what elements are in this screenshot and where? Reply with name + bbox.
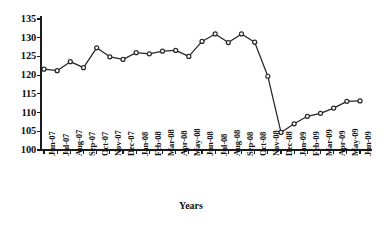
x-axis-tick-label: Apr-09	[337, 131, 347, 156]
x-axis-tick-label: May-08	[192, 128, 202, 156]
y-axis-tick-label: 120	[2, 69, 36, 80]
x-axis-tick-label: Nov-07	[113, 130, 123, 156]
data-point-marker	[266, 74, 270, 78]
x-axis-tick-label: Sep-07	[87, 132, 97, 156]
x-axis-tick-label: Jul-08	[219, 134, 229, 156]
x-axis-tick-label: Sep-08	[245, 132, 255, 156]
x-axis-tick-label: Nov-08	[271, 130, 281, 156]
x-axis-tick-label: Jun-07	[47, 131, 57, 156]
data-point-marker	[68, 60, 72, 64]
data-point-marker	[147, 52, 151, 56]
x-axis-tick-label: Jun-09	[363, 131, 373, 156]
y-axis-tick-label: 130	[2, 32, 36, 43]
data-point-marker	[319, 111, 323, 115]
chart-series-markers	[42, 32, 362, 134]
data-point-marker	[82, 66, 86, 70]
data-point-marker	[305, 114, 309, 118]
data-point-marker	[55, 69, 59, 73]
data-point-marker	[121, 57, 125, 61]
data-point-marker	[95, 46, 99, 50]
data-point-marker	[240, 32, 244, 36]
y-axis-tick-label: 125	[2, 50, 36, 61]
x-axis-tick-label: Mar-08	[166, 129, 176, 156]
chart-series-line	[44, 34, 360, 132]
y-axis-tick-label: 115	[2, 88, 36, 99]
data-point-marker	[226, 41, 230, 45]
x-axis-tick-label: Apr-08	[179, 131, 189, 156]
y-axis-tick-label: 110	[2, 107, 36, 118]
x-axis-tick-label: Dec-07	[126, 131, 136, 156]
x-axis-title: Years	[0, 200, 382, 211]
data-point-marker	[358, 99, 362, 103]
y-axis-tick-label: 105	[2, 125, 36, 136]
x-axis-tick-label: Mar-09	[324, 129, 334, 156]
data-point-marker	[174, 48, 178, 52]
data-point-marker	[345, 99, 349, 103]
x-axis-tick-label: Oct-07	[100, 132, 110, 156]
data-point-marker	[253, 40, 257, 44]
data-point-marker	[42, 67, 46, 71]
x-axis-tick-label: Jan-09	[298, 132, 308, 156]
data-point-marker	[292, 122, 296, 126]
x-axis-tick-label: May-09	[350, 128, 360, 156]
y-axis-tick-label: 135	[2, 13, 36, 24]
x-axis-tick-label: Aug-08	[232, 130, 242, 156]
x-axis-tick-label: Jan-08	[140, 132, 150, 156]
chart-plot-area	[0, 0, 382, 225]
data-point-marker	[213, 32, 217, 36]
data-point-marker	[332, 106, 336, 110]
data-point-marker	[187, 54, 191, 58]
x-axis-tick-label: Dec-08	[284, 131, 294, 156]
x-axis-tick-label: Feb-09	[311, 131, 321, 156]
data-point-marker	[108, 55, 112, 59]
data-point-marker	[161, 49, 165, 53]
x-axis-tick-label: Feb-08	[153, 131, 163, 156]
x-axis-tick-label: Jun-08	[205, 131, 215, 156]
series-line	[44, 34, 360, 132]
data-point-marker	[200, 39, 204, 43]
y-axis-tick-label: 100	[2, 144, 36, 155]
x-axis-tick-label: Aug-07	[74, 130, 84, 156]
x-axis-tick-label: Jul-07	[61, 134, 71, 156]
line-chart: 100105110115120125130135 Jun-07Jul-07Aug…	[0, 0, 382, 225]
x-axis-tick-label: Oct-08	[258, 132, 268, 156]
data-point-marker	[134, 51, 138, 55]
